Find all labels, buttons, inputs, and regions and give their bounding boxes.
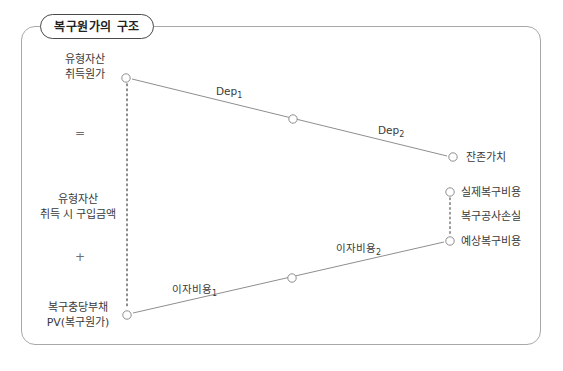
node-dep-midpoint: [289, 115, 297, 123]
diagram-title-box: 복구원가의 구조: [40, 14, 154, 39]
label-restoration-loss: 복구공사손실: [461, 209, 521, 224]
operator-equals: =: [75, 127, 85, 139]
label-dep1-subscript: 1: [237, 91, 242, 100]
label-interest1-text: 이자비용: [172, 283, 212, 295]
label-provision-pv-line2: PV(복구원가): [33, 315, 123, 330]
label-interest2-subscript: 2: [376, 248, 381, 257]
label-dep2-subscript: 2: [399, 130, 404, 139]
page-title: 복구원가의 구조: [54, 21, 140, 33]
label-purchase-amount: 유형자산 취득 시 구입금액: [18, 192, 138, 222]
label-acquisition-cost-line2: 취득원가: [45, 67, 125, 82]
label-dep2: Dep2: [378, 125, 404, 139]
node-expected-restoration-cost: [446, 237, 454, 245]
label-provision-pv: 복구충당부채 PV(복구원가): [33, 300, 123, 330]
label-acquisition-cost-line1: 유형자산: [45, 52, 125, 67]
label-dep1-text: Dep: [216, 85, 237, 97]
node-residual-value: [449, 153, 457, 161]
node-provision-pv: [123, 311, 131, 319]
operator-plus: +: [75, 251, 85, 263]
node-interest-midpoint: [288, 274, 296, 282]
label-purchase-amount-line1: 유형자산: [18, 192, 138, 207]
label-interest2-text: 이자비용: [336, 242, 376, 254]
label-actual-restoration-cost: 실제복구비용: [461, 185, 521, 200]
label-provision-pv-line1: 복구충당부채: [33, 300, 123, 315]
label-expected-restoration-cost: 예상복구비용: [461, 234, 521, 249]
label-interest2: 이자비용2: [336, 243, 381, 257]
label-interest1: 이자비용1: [172, 284, 217, 298]
label-residual-value: 잔존가치: [466, 150, 506, 165]
node-actual-restoration-cost: [446, 188, 454, 196]
label-acquisition-cost: 유형자산 취득원가: [45, 52, 125, 82]
label-interest1-subscript: 1: [212, 289, 217, 298]
label-dep1: Dep1: [216, 86, 242, 100]
label-dep2-text: Dep: [378, 124, 399, 136]
diagram-canvas: 복구원가의 구조 유형자산 취득원가 = 유형자산 취득 시 구입금액 + 복구…: [0, 0, 563, 371]
label-purchase-amount-line2: 취득 시 구입금액: [18, 207, 138, 222]
